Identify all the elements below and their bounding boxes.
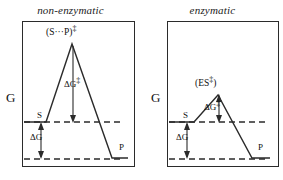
activation-energy-label-non-enzymatic: ΔG‡ [64, 80, 80, 89]
transition-state-label-enzymatic: (ES‡) [195, 79, 216, 89]
product-label-enzymatic: P [258, 143, 263, 152]
ts-suffix: ) [213, 78, 216, 88]
panel-enzymatic: enzymatic G (ES‡) ΔG‡ S ΔG P [142, 0, 283, 180]
transition-state-label-non-enzymatic: (S···P)‡ [46, 28, 76, 38]
reaction-energy-arrow-head-down [184, 151, 190, 159]
substrate-label-enzymatic: S [183, 111, 188, 120]
product-label-non-enzymatic: P [119, 143, 124, 152]
reaction-energy-arrow-head-up [184, 122, 190, 130]
activation-dg-text: ΔG [204, 102, 216, 112]
ts-mid: ··· [54, 27, 64, 37]
activation-double-dagger: ‡ [76, 76, 80, 85]
reaction-energy-arrow-head-down [38, 151, 44, 159]
activation-double-dagger: ‡ [216, 99, 220, 108]
energy-diagram-figure: non-enzymatic G (S···P)‡ ΔG‡ S ΔG P [0, 0, 283, 180]
panel-non-enzymatic: non-enzymatic G (S···P)‡ ΔG‡ S ΔG P [0, 0, 141, 180]
activation-energy-label-enzymatic: ΔG‡ [204, 103, 220, 112]
reaction-energy-arrow-head-up [38, 122, 44, 130]
substrate-label-non-enzymatic: S [37, 111, 42, 120]
ts-prefix: (ES [195, 78, 209, 88]
ts-double-dagger: ‡ [72, 24, 76, 33]
reaction-energy-label-non-enzymatic: ΔG [30, 133, 42, 142]
curve-layer-enzymatic [142, 0, 283, 180]
activation-dg-text: ΔG [64, 79, 76, 89]
reaction-energy-label-enzymatic: ΔG [176, 133, 188, 142]
